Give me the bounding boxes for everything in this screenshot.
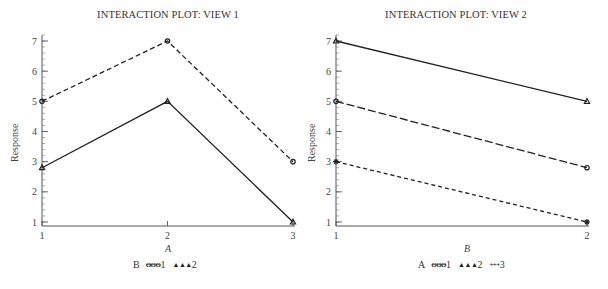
right-plot: INTERACTION PLOT: VIEW 2 123456712 Respo… <box>304 0 608 289</box>
series-line-2 <box>42 101 293 222</box>
svg-text:1: 1 <box>326 217 331 228</box>
svg-text:6: 6 <box>326 66 331 77</box>
left-y-axis-label: Response <box>9 124 20 162</box>
svg-text:2: 2 <box>32 186 37 197</box>
right-legend-title: A <box>418 259 425 270</box>
circle-marker-icon: ΘΘΘ <box>431 261 446 269</box>
left-legend-item-2: ▲▲▲ 2 <box>173 259 197 270</box>
svg-text:2: 2 <box>165 230 170 241</box>
svg-text:3: 3 <box>326 156 331 167</box>
triangle-marker-icon: ▲▲▲ <box>458 261 477 269</box>
svg-text:1: 1 <box>40 230 45 241</box>
series-line-3 <box>336 162 587 222</box>
svg-text:4: 4 <box>32 126 37 137</box>
right-y-axis-label: Response <box>306 124 317 162</box>
svg-text:1: 1 <box>334 230 339 241</box>
left-legend-item-1: ΘΘΘ 1 <box>146 259 166 270</box>
right-plot-area: 123456712 <box>304 0 608 289</box>
svg-text:2: 2 <box>326 186 331 197</box>
svg-text:3: 3 <box>32 156 37 167</box>
triangle-marker-icon: ▲▲▲ <box>173 261 192 269</box>
right-plot-title: INTERACTION PLOT: VIEW 2 <box>284 9 608 20</box>
right-legend-item-1: ΘΘΘ 1 <box>431 259 451 270</box>
circle-marker-icon: ΘΘΘ <box>146 261 161 269</box>
svg-text:5: 5 <box>326 96 331 107</box>
svg-text:4: 4 <box>326 126 331 137</box>
svg-text:5: 5 <box>32 96 37 107</box>
left-legend-title: B <box>133 259 140 270</box>
right-legend-item-2: ▲▲▲ 2 <box>458 259 482 270</box>
left-x-axis-label: A <box>158 243 178 254</box>
plus-marker-icon: +++ <box>489 261 499 269</box>
series-line-1 <box>336 101 587 167</box>
right-x-axis-label: B <box>457 243 477 254</box>
right-legend: A ΘΘΘ 1 ▲▲▲ 2 +++ 3 <box>418 259 509 270</box>
svg-text:7: 7 <box>32 36 37 47</box>
left-plot-area: 1234567123 <box>0 0 304 289</box>
right-legend-item-3: +++ 3 <box>489 259 504 270</box>
svg-text:1: 1 <box>32 217 37 228</box>
svg-text:6: 6 <box>32 66 37 77</box>
plus-marker <box>584 219 590 225</box>
svg-text:7: 7 <box>326 36 331 47</box>
svg-text:3: 3 <box>291 230 296 241</box>
series-line-2 <box>336 41 587 101</box>
left-plot: INTERACTION PLOT: VIEW 1 1234567123 Resp… <box>0 0 304 289</box>
plus-marker <box>333 159 339 165</box>
left-legend: B ΘΘΘ 1 ▲▲▲ 2 <box>133 259 201 270</box>
svg-text:2: 2 <box>585 230 590 241</box>
